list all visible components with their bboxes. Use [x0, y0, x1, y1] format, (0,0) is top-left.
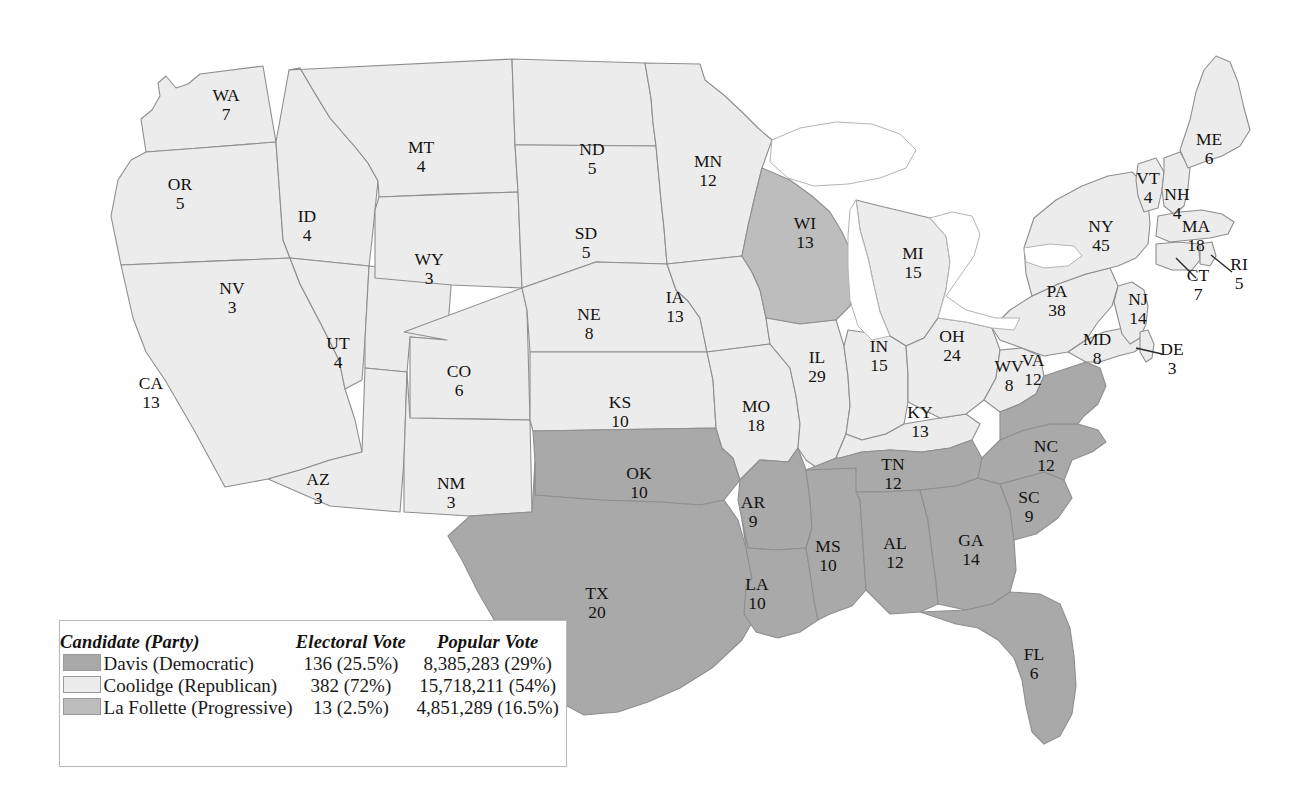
- state-label-TN: TN12: [881, 454, 905, 493]
- state-label-CA: CA13: [139, 373, 164, 412]
- state-abbr-AZ: AZ: [306, 469, 329, 489]
- state-ev-NC: 12: [1037, 455, 1055, 475]
- legend-candidate: Coolidge (Republican): [104, 675, 293, 697]
- state-ev-MN: 12: [699, 170, 717, 190]
- state-label-PA: PA38: [1047, 281, 1068, 320]
- state-abbr-IL: IL: [809, 347, 826, 367]
- state-ev-ID: 4: [303, 225, 312, 245]
- state-abbr-MS: MS: [815, 536, 840, 556]
- state-ev-SD: 5: [582, 242, 591, 262]
- state-WA[interactable]: [141, 66, 276, 152]
- legend-header-popular: Popular Vote: [409, 632, 566, 653]
- legend-row: Davis (Democratic)136 (25.5%)8,385,283 (…: [60, 653, 566, 675]
- state-ev-DE: 3: [1168, 358, 1177, 378]
- map-legend: Candidate (Party) Electoral Vote Popular…: [59, 620, 567, 767]
- state-abbr-IA: IA: [666, 287, 685, 307]
- state-ev-CT: 7: [1194, 284, 1203, 304]
- state-abbr-UT: UT: [326, 333, 350, 353]
- state-label-TX: TX20: [585, 583, 609, 622]
- state-WY[interactable]: [375, 192, 522, 288]
- state-ev-CA: 13: [142, 392, 160, 412]
- legend-candidate: Davis (Democratic): [104, 653, 293, 675]
- state-abbr-NC: NC: [1034, 436, 1058, 456]
- state-abbr-OK: OK: [626, 463, 652, 483]
- state-abbr-CO: CO: [447, 361, 471, 381]
- state-ev-IL: 29: [808, 366, 826, 386]
- electoral-map-figure: WA7OR5CA13ID4NV3UT4AZ3MT4WY3CO6NM3ND5SD5…: [0, 0, 1313, 803]
- state-abbr-AL: AL: [883, 533, 906, 553]
- state-ev-MD: 8: [1093, 348, 1102, 368]
- state-FL[interactable]: [920, 592, 1076, 744]
- state-abbr-DE: DE: [1160, 339, 1183, 359]
- state-abbr-SD: SD: [575, 223, 597, 243]
- state-ev-WA: 7: [222, 104, 231, 124]
- state-ev-TN: 12: [884, 473, 902, 493]
- state-ev-WI: 13: [796, 232, 814, 252]
- state-abbr-GA: GA: [958, 530, 984, 550]
- state-ev-MS: 10: [819, 555, 837, 575]
- state-ME[interactable]: [1180, 56, 1250, 168]
- state-ev-AZ: 3: [314, 488, 323, 508]
- state-abbr-CT: CT: [1187, 265, 1210, 285]
- state-ev-KY: 13: [911, 421, 929, 441]
- lake-superior: [770, 122, 916, 186]
- legend-header-row: Candidate (Party) Electoral Vote Popular…: [60, 632, 566, 653]
- legend-header-candidate: Candidate (Party): [60, 632, 292, 653]
- state-abbr-MT: MT: [408, 137, 435, 157]
- state-abbr-ND: ND: [579, 139, 604, 159]
- state-abbr-KY: KY: [907, 402, 933, 422]
- state-ev-MI: 15: [904, 262, 922, 282]
- state-ev-OR: 5: [176, 193, 185, 213]
- state-abbr-SC: SC: [1018, 487, 1039, 507]
- legend-table: Candidate (Party) Electoral Vote Popular…: [60, 632, 566, 719]
- state-abbr-NH: NH: [1164, 184, 1190, 204]
- legend-row: Coolidge (Republican)382 (72%)15,718,211…: [60, 675, 566, 697]
- legend-swatch-cell: [60, 653, 104, 675]
- leader-line-ri: [1211, 255, 1232, 272]
- state-abbr-MA: MA: [1182, 216, 1211, 236]
- state-ev-NJ: 14: [1129, 308, 1147, 328]
- state-ev-KS: 10: [611, 411, 629, 431]
- state-OR[interactable]: [111, 142, 290, 265]
- state-abbr-ID: ID: [298, 206, 316, 226]
- legend-swatch-cell: [60, 697, 104, 719]
- state-ev-UT: 4: [334, 352, 343, 372]
- state-abbr-NV: NV: [219, 278, 245, 298]
- state-ev-MT: 4: [417, 156, 426, 176]
- state-abbr-NM: NM: [437, 473, 466, 493]
- state-ev-GA: 14: [962, 549, 980, 569]
- state-abbr-VT: VT: [1136, 168, 1160, 188]
- state-abbr-OR: OR: [168, 174, 193, 194]
- state-abbr-NE: NE: [577, 304, 600, 324]
- state-ev-RI: 5: [1235, 273, 1244, 293]
- state-ev-LA: 10: [748, 593, 766, 613]
- legend-popular-vote: 8,385,283 (29%): [409, 653, 566, 675]
- state-abbr-ME: ME: [1196, 129, 1222, 149]
- state-abbr-LA: LA: [745, 574, 769, 594]
- state-label-RI: RI5: [1230, 254, 1248, 293]
- state-label-IN: IN15: [870, 336, 889, 375]
- state-ev-NY: 45: [1092, 235, 1110, 255]
- state-label-KS: KS10: [609, 392, 631, 431]
- legend-swatch-dem: [63, 654, 101, 671]
- state-abbr-KS: KS: [609, 392, 631, 412]
- state-ev-OK: 10: [630, 482, 648, 502]
- state-abbr-MI: MI: [902, 243, 924, 263]
- state-ev-VT: 4: [1144, 187, 1153, 207]
- state-ev-WY: 3: [425, 268, 434, 288]
- legend-body: Davis (Democratic)136 (25.5%)8,385,283 (…: [60, 653, 566, 719]
- state-DE[interactable]: [1140, 330, 1154, 362]
- state-ev-MA: 18: [1187, 235, 1205, 255]
- state-ev-VA: 12: [1024, 369, 1042, 389]
- state-ev-NM: 3: [447, 492, 456, 512]
- legend-header-electoral: Electoral Vote: [292, 632, 409, 653]
- state-ev-MO: 18: [747, 415, 765, 435]
- legend-row: La Follette (Progressive)13 (2.5%)4,851,…: [60, 697, 566, 719]
- legend-electoral-vote: 136 (25.5%): [292, 653, 409, 675]
- state-abbr-WV: WV: [994, 356, 1024, 376]
- state-label-NC: NC12: [1034, 436, 1058, 475]
- state-abbr-WA: WA: [212, 85, 240, 105]
- state-abbr-MD: MD: [1083, 329, 1111, 349]
- state-ev-ND: 5: [588, 158, 597, 178]
- state-ND[interactable]: [512, 59, 656, 146]
